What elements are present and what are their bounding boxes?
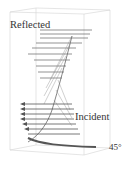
wave-reflection-diagram: Reflected Incident 45° [0,0,126,172]
incident-label: Incident [75,112,109,123]
reflected-label: Reflected [10,20,50,31]
incident-arrows [22,104,80,134]
reflected-arrows [28,30,92,78]
angle-label: 45° [109,143,122,152]
